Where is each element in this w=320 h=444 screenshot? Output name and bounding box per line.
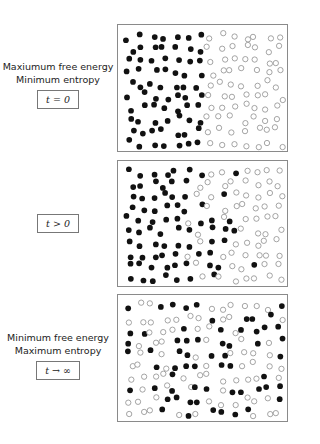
white-particle bbox=[262, 118, 267, 123]
black-particle bbox=[209, 239, 215, 245]
black-particle bbox=[130, 49, 136, 55]
black-particle bbox=[194, 399, 200, 405]
black-particle bbox=[177, 348, 183, 354]
black-particle bbox=[137, 243, 143, 249]
white-particle bbox=[229, 94, 234, 99]
white-particle bbox=[256, 183, 261, 188]
black-particle bbox=[158, 231, 164, 237]
black-particle bbox=[244, 316, 250, 322]
white-particle bbox=[275, 184, 280, 189]
white-particle bbox=[197, 373, 202, 378]
white-particle bbox=[216, 114, 221, 119]
white-particle bbox=[268, 36, 273, 41]
white-particle bbox=[233, 104, 238, 109]
black-particle bbox=[277, 383, 283, 389]
white-particle bbox=[208, 83, 213, 88]
black-particle bbox=[249, 316, 255, 322]
white-particle bbox=[147, 408, 152, 413]
black-particle bbox=[149, 265, 155, 271]
black-particle bbox=[165, 97, 171, 103]
white-particle bbox=[227, 68, 232, 73]
white-particle bbox=[255, 170, 260, 175]
white-particle bbox=[195, 232, 200, 237]
white-particle bbox=[227, 314, 232, 319]
black-particle bbox=[209, 318, 215, 324]
black-particle bbox=[195, 337, 201, 343]
white-particle bbox=[254, 216, 259, 221]
white-particle bbox=[239, 336, 244, 341]
black-particle bbox=[130, 79, 136, 85]
white-particle bbox=[229, 250, 234, 255]
white-particle bbox=[232, 142, 237, 147]
black-particle bbox=[174, 277, 180, 283]
white-particle bbox=[250, 34, 255, 39]
white-particle bbox=[254, 67, 259, 72]
black-particle bbox=[278, 354, 284, 360]
white-particle bbox=[251, 114, 256, 119]
white-particle bbox=[126, 400, 131, 405]
white-particle bbox=[254, 303, 259, 308]
white-particle bbox=[221, 68, 226, 73]
white-particle bbox=[263, 253, 268, 258]
black-particle bbox=[165, 265, 171, 271]
white-particle bbox=[255, 83, 260, 88]
black-particle bbox=[175, 338, 181, 344]
black-particle bbox=[196, 125, 202, 131]
black-particle bbox=[174, 85, 180, 91]
black-particle bbox=[218, 327, 224, 333]
white-particle bbox=[257, 125, 262, 130]
time-label-box: t → ∞ bbox=[36, 361, 80, 380]
white-particle bbox=[273, 213, 278, 218]
white-particle bbox=[255, 231, 260, 236]
black-particle bbox=[159, 407, 165, 413]
white-particle bbox=[243, 216, 248, 221]
black-particle bbox=[199, 172, 205, 178]
white-particle bbox=[280, 317, 285, 322]
white-particle bbox=[261, 238, 266, 243]
black-particle bbox=[176, 243, 182, 249]
black-particle bbox=[192, 364, 198, 370]
white-particle bbox=[276, 375, 281, 380]
white-particle bbox=[221, 31, 226, 36]
black-particle bbox=[142, 89, 148, 95]
black-particle bbox=[181, 326, 187, 332]
white-particle bbox=[257, 253, 262, 258]
black-particle bbox=[136, 144, 142, 150]
black-particle bbox=[169, 388, 175, 394]
white-particle bbox=[267, 273, 272, 278]
black-particle bbox=[251, 262, 257, 268]
white-particle bbox=[277, 253, 282, 258]
time-label: t > 0 bbox=[46, 218, 70, 229]
white-particle bbox=[233, 279, 238, 284]
white-particle bbox=[234, 378, 239, 383]
white-particle bbox=[230, 43, 235, 48]
black-particle bbox=[262, 324, 268, 330]
white-particle bbox=[266, 340, 271, 345]
black-particle bbox=[215, 265, 221, 271]
black-particle bbox=[182, 95, 188, 101]
white-particle bbox=[198, 239, 203, 244]
black-particle bbox=[163, 272, 169, 278]
white-particle bbox=[135, 399, 140, 404]
white-particle bbox=[161, 371, 166, 376]
white-particle bbox=[165, 318, 170, 323]
black-particle bbox=[159, 252, 165, 258]
black-particle bbox=[223, 226, 229, 232]
white-particle bbox=[273, 410, 278, 415]
black-particle bbox=[171, 168, 177, 174]
white-particle bbox=[251, 276, 256, 281]
white-particle bbox=[207, 36, 212, 41]
black-particle bbox=[150, 278, 156, 284]
white-particle bbox=[242, 303, 247, 308]
black-particle bbox=[219, 362, 225, 368]
black-particle bbox=[147, 81, 153, 87]
black-particle bbox=[135, 218, 141, 224]
white-particle bbox=[138, 350, 143, 355]
black-particle bbox=[238, 327, 244, 333]
white-particle bbox=[254, 376, 259, 381]
black-particle bbox=[137, 183, 143, 189]
black-particle bbox=[138, 44, 144, 50]
white-particle bbox=[153, 374, 158, 379]
white-particle bbox=[170, 327, 175, 332]
black-particle bbox=[184, 261, 190, 267]
